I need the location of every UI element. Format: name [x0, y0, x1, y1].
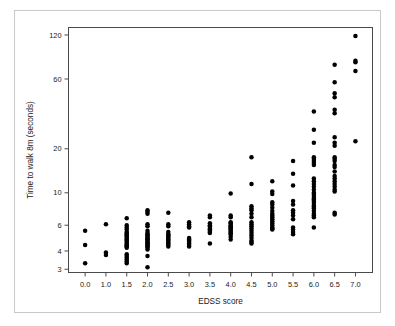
data-point [353, 34, 358, 39]
data-point [124, 246, 129, 251]
data-points [83, 34, 358, 270]
x-tick-label: 3.5 [205, 280, 215, 289]
y-tick-label: 10 [53, 188, 61, 197]
plot-frame [69, 28, 373, 273]
data-point [83, 228, 88, 233]
data-point [332, 91, 337, 96]
data-point [353, 69, 358, 74]
figure-container: 3461020601200.01.01.52.02.53.03.54.04.55… [0, 0, 395, 326]
data-point [332, 169, 337, 174]
data-point [332, 111, 337, 116]
y-tick-label: 60 [53, 75, 61, 84]
data-point [124, 216, 129, 221]
data-point [228, 237, 233, 242]
data-point [145, 211, 150, 216]
data-point [312, 140, 317, 145]
data-point [291, 159, 296, 164]
data-point [332, 189, 337, 194]
data-point [166, 211, 171, 216]
axes [65, 28, 373, 277]
x-tick-label: 2.0 [142, 280, 152, 289]
x-tick-label: 4.0 [226, 280, 236, 289]
y-tick-label: 120 [49, 31, 61, 40]
data-point [270, 192, 275, 197]
x-tick-label: 3.0 [184, 280, 194, 289]
x-tick-label: 2.5 [163, 280, 173, 289]
data-point [249, 215, 254, 220]
data-point [312, 109, 317, 114]
data-point [187, 225, 192, 230]
data-point [291, 183, 296, 188]
data-point [332, 80, 337, 85]
data-point [83, 243, 88, 248]
data-point [270, 179, 275, 184]
x-tick-label: 6.0 [309, 280, 319, 289]
data-point [353, 139, 358, 144]
data-point [228, 215, 233, 220]
data-point [104, 222, 109, 227]
data-point [145, 265, 150, 270]
y-tick-label: 4 [57, 247, 61, 256]
data-point [228, 191, 233, 196]
x-tick-label: 5.5 [288, 280, 298, 289]
x-tick-label: 6.5 [330, 280, 340, 289]
data-point [332, 159, 337, 164]
data-point [312, 127, 317, 132]
data-point [208, 231, 213, 236]
data-point [291, 171, 296, 176]
data-point [145, 254, 150, 259]
y-axis-title: Time to walk 8m (seconds) [26, 101, 35, 199]
data-point [249, 182, 254, 187]
x-tick-label: 7.0 [350, 280, 360, 289]
data-point [291, 202, 296, 207]
data-point [291, 232, 296, 237]
data-point [332, 95, 337, 100]
y-tick-label: 3 [57, 265, 61, 274]
data-point [124, 261, 129, 266]
data-point [312, 225, 317, 230]
data-point [83, 261, 88, 266]
data-point [312, 163, 317, 168]
data-point [166, 224, 171, 229]
data-point [291, 217, 296, 222]
data-point [312, 215, 317, 220]
x-tick-label: 1.0 [101, 280, 111, 289]
x-axis-title: EDSS score [198, 297, 243, 306]
data-point [166, 244, 171, 249]
data-point [270, 227, 275, 232]
x-tick-label: 0.0 [80, 280, 90, 289]
data-point [104, 253, 109, 257]
y-tick-label: 6 [57, 221, 61, 230]
data-point [145, 224, 150, 229]
data-point [332, 135, 337, 140]
data-point [208, 241, 213, 246]
data-point [332, 63, 337, 68]
axis-labels: 3461020601200.01.01.52.02.53.03.54.04.55… [26, 31, 361, 306]
x-tick-label: 5.0 [267, 280, 277, 289]
data-point [145, 247, 150, 252]
data-point [249, 241, 254, 246]
x-tick-label: 1.5 [122, 280, 132, 289]
scatter-plot: 3461020601200.01.01.52.02.53.03.54.04.55… [0, 0, 395, 326]
data-point [332, 212, 337, 217]
data-point [332, 143, 337, 148]
data-point [208, 215, 213, 220]
data-point [249, 155, 254, 160]
data-point [187, 244, 192, 249]
y-tick-label: 20 [53, 144, 61, 153]
x-tick-label: 4.5 [246, 280, 256, 289]
data-point [332, 165, 337, 170]
data-point [353, 60, 358, 65]
